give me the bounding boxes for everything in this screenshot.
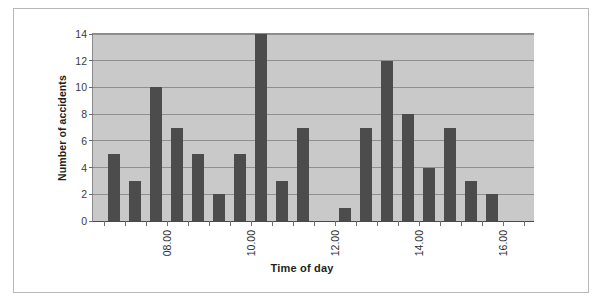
bar [360, 128, 372, 222]
y-tick-label: 4 [81, 162, 87, 174]
bar [486, 194, 498, 221]
x-tick-mark [524, 221, 525, 226]
x-tick-mark [230, 221, 231, 226]
x-tick-mark [209, 221, 210, 226]
x-tick-mark [251, 221, 252, 226]
y-tick-mark [89, 114, 93, 115]
x-tick-mark [356, 221, 357, 226]
x-tick-mark [461, 221, 462, 226]
bar [339, 208, 351, 221]
plot-inner: 0246810121408.0010.0012.0014.0016.00 [93, 34, 534, 221]
y-tick-mark [89, 167, 93, 168]
x-tick-mark [188, 221, 189, 226]
plot-area: 0246810121408.0010.0012.0014.0016.00 [92, 33, 534, 221]
x-tick-mark [314, 221, 315, 226]
x-tick-mark [104, 221, 105, 226]
x-tick-mark [482, 221, 483, 226]
x-tick-mark [398, 221, 399, 226]
x-tick-mark [419, 221, 420, 226]
x-tick-mark [377, 221, 378, 226]
y-tick-mark [89, 87, 93, 88]
x-tick-mark [440, 221, 441, 226]
y-tick-mark [89, 194, 93, 195]
bar [255, 34, 267, 221]
bar [402, 114, 414, 221]
bar [234, 154, 246, 221]
bar [381, 61, 393, 221]
bar [192, 154, 204, 221]
bar [297, 128, 309, 222]
x-tick-mark [293, 221, 294, 226]
y-tick-mark [89, 140, 93, 141]
x-tick-mark [167, 221, 168, 226]
y-tick-label: 10 [75, 81, 87, 93]
y-tick-label: 6 [81, 135, 87, 147]
x-tick-label: 08.00 [161, 230, 173, 256]
bar [150, 87, 162, 221]
x-tick-mark [335, 221, 336, 226]
y-tick-label: 0 [81, 215, 87, 227]
y-tick-label: 2 [81, 188, 87, 200]
y-tick-label: 12 [75, 55, 87, 67]
chart-figure: Number of accidents 0246810121408.0010.0… [13, 8, 589, 293]
x-tick-label: 14.00 [413, 230, 425, 256]
y-axis-title: Number of accidents [56, 48, 68, 208]
y-tick-mark [89, 60, 93, 61]
y-tick-label: 8 [81, 108, 87, 120]
y-gridline [93, 60, 534, 61]
bar [108, 154, 120, 221]
bar [171, 128, 183, 222]
bar [444, 128, 456, 222]
x-tick-mark [146, 221, 147, 226]
x-tick-label: 16.00 [497, 230, 509, 256]
bar [213, 194, 225, 221]
x-tick-mark [503, 221, 504, 226]
y-tick-label: 14 [75, 28, 87, 40]
y-tick-mark [89, 34, 93, 35]
y-gridline [93, 34, 534, 35]
bar [129, 181, 141, 221]
x-tick-mark [272, 221, 273, 226]
x-axis-title: Time of day [14, 262, 590, 274]
x-tick-label: 12.00 [329, 230, 341, 256]
x-tick-label: 10.00 [245, 230, 257, 256]
bar [423, 168, 435, 221]
bar [465, 181, 477, 221]
x-tick-mark [125, 221, 126, 226]
bar [276, 181, 288, 221]
